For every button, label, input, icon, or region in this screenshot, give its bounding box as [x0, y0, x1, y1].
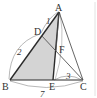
label-F: F	[59, 44, 65, 55]
geometry-diagram: A B C D E F 1 2 3 7	[0, 0, 97, 98]
length-EC: 3	[65, 71, 71, 81]
length-BC: 7	[40, 89, 45, 98]
label-E: E	[49, 81, 55, 92]
arc-BC	[10, 81, 83, 88]
label-B: B	[2, 81, 9, 92]
length-DB: 2	[17, 47, 22, 57]
label-A: A	[55, 2, 63, 13]
label-D: D	[34, 26, 41, 37]
label-C: C	[80, 81, 87, 92]
length-AD: 1	[46, 16, 51, 26]
